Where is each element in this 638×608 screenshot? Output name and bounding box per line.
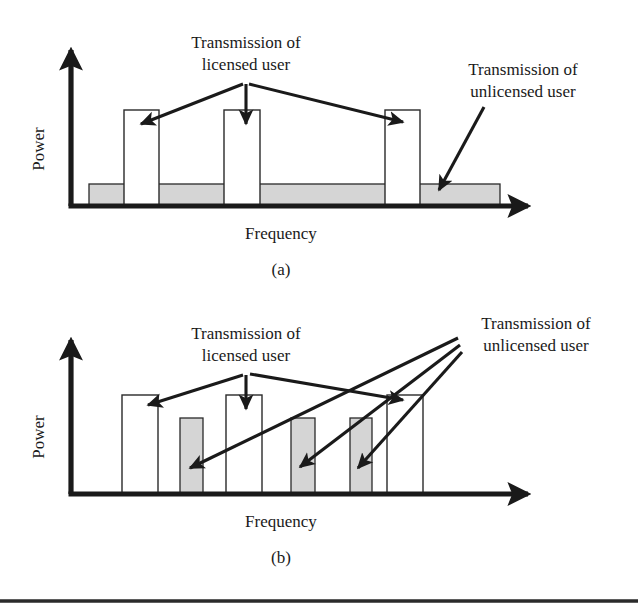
panel-b-licensed-bar-1 bbox=[122, 395, 158, 493]
panel-a-licensed-bar-2 bbox=[224, 110, 260, 205]
panel-b-x-axis-label: Frequency bbox=[245, 512, 317, 531]
panel-b-licensed-bar-2 bbox=[226, 395, 262, 493]
panel-b-callout-unlicensed-line1: Transmission of bbox=[481, 314, 591, 333]
panel-b-callout-licensed-line1: Transmission of bbox=[191, 324, 301, 343]
panel-a-caption: (a) bbox=[272, 260, 291, 279]
panel-b-unlicensed-bar-1 bbox=[180, 418, 203, 493]
panel-a-callout-licensed-line2: licensed user bbox=[202, 55, 291, 74]
panel-b-y-axis-label: Power bbox=[29, 415, 48, 459]
spectrum-figure-canvas: Power Frequency (a) Transmission of lice… bbox=[0, 0, 638, 608]
figure-root: Power Frequency (a) Transmission of lice… bbox=[0, 0, 638, 608]
panel-a-callout-unlicensed-line2: unlicensed user bbox=[470, 82, 576, 101]
panel-b-licensed-bar-3 bbox=[387, 395, 423, 493]
panel-a-licensed-bar-3 bbox=[385, 110, 420, 205]
panel-b-unlicensed-bar-2 bbox=[291, 418, 315, 493]
panel-a-x-axis-label: Frequency bbox=[245, 224, 317, 243]
panel-b-callout-licensed-line2: licensed user bbox=[202, 346, 291, 365]
panel-a-callout-unlicensed-line1: Transmission of bbox=[468, 60, 578, 79]
panel-a-y-axis-label: Power bbox=[29, 127, 48, 171]
panel-a-callout-licensed-line1: Transmission of bbox=[191, 33, 301, 52]
panel-b-caption: (b) bbox=[271, 548, 291, 567]
panel-b-callout-unlicensed-line2: unlicensed user bbox=[483, 336, 589, 355]
